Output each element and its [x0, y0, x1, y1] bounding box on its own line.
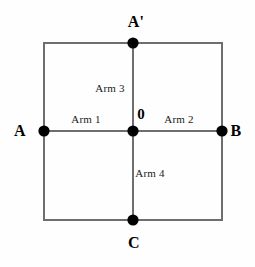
- node-c: [127, 214, 138, 225]
- label-arm-4: Arm 4: [135, 168, 164, 179]
- label-c: C: [128, 235, 140, 251]
- label-a-prime: A': [128, 14, 144, 30]
- node-a: [38, 125, 49, 136]
- node-origin: [127, 125, 138, 136]
- label-arm-2: Arm 2: [164, 114, 193, 125]
- node-b: [216, 125, 227, 136]
- label-origin: 0: [137, 107, 145, 122]
- label-arm-3: Arm 3: [95, 83, 124, 94]
- label-a: A: [14, 123, 26, 139]
- plus-maze-diagram: A' A B C 0 Arm 1 Arm 2 Arm 3 Arm 4: [0, 0, 255, 267]
- node-a-prime: [127, 37, 138, 48]
- label-b: B: [231, 123, 242, 139]
- maze-graphic: [0, 0, 255, 267]
- label-arm-1: Arm 1: [71, 114, 100, 125]
